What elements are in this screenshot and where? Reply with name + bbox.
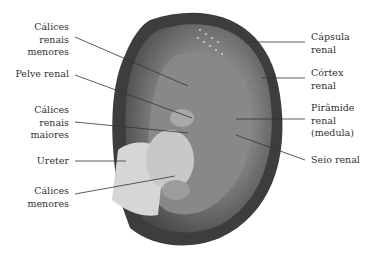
kidney-diagram: Cálices renais menores Pelve renal Cálic… <box>0 0 372 271</box>
label-calices-renais-menores: Cálices renais menores <box>27 21 69 59</box>
label-seio-renal: Seio renal <box>311 154 360 167</box>
label-calices-renais-maiores: Cálices renais maiores <box>31 104 69 142</box>
label-calices-menores: Cálices menores <box>27 185 69 210</box>
label-pelve-renal: Pelve renal <box>15 68 69 81</box>
label-ureter: Ureter <box>37 155 69 168</box>
label-cortex-renal: Córtex renal <box>311 67 343 92</box>
label-piramide-renal: Pirâmide renal (medula) <box>311 102 354 140</box>
label-capsula-renal: Cápsula renal <box>311 31 350 56</box>
